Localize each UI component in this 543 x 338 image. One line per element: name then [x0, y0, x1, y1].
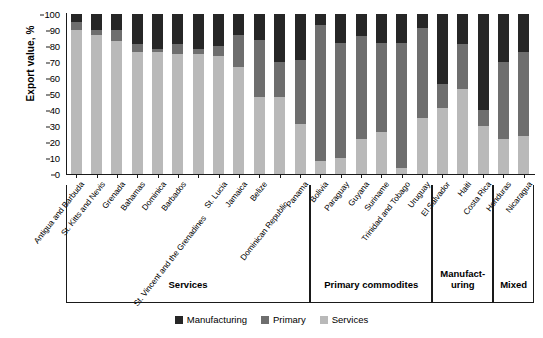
x-axis-tick-mark — [483, 174, 484, 178]
bar-segment-manufacturing — [315, 14, 326, 25]
bar-segment-services — [315, 161, 326, 174]
bar-segment-services — [152, 52, 163, 174]
legend-swatch — [261, 316, 269, 324]
bar-segment-primary — [396, 43, 407, 168]
bar-segment-manufacturing — [396, 14, 407, 43]
bar-segment-services — [478, 126, 489, 174]
bar-segment-services — [91, 35, 102, 174]
bar-segment-manufacturing — [376, 14, 387, 43]
bar-segment-services — [356, 139, 367, 174]
plot-area: 0102030405060708090100 — [66, 14, 534, 174]
x-axis-tick-mark — [178, 174, 179, 178]
bar-segment-manufacturing — [335, 14, 346, 43]
bar-stack — [437, 14, 448, 174]
x-axis-tick-mark — [239, 174, 240, 178]
bar-segment-primary — [233, 35, 244, 67]
y-axis-tick-label: 0 — [55, 169, 66, 180]
bar-stack — [417, 14, 428, 174]
bar-segment-primary — [295, 60, 306, 124]
y-axis-title: Export value, % — [25, 0, 36, 139]
y-axis-tick-label: 90 — [50, 25, 66, 36]
bar-segment-services — [213, 56, 224, 174]
bar-segment-primary — [437, 84, 448, 108]
y-axis-tick-mark — [46, 158, 50, 159]
y-axis-tick-label: 40 — [50, 105, 66, 116]
bar-segment-primary — [71, 22, 82, 30]
y-axis-tick-label: 60 — [50, 73, 66, 84]
x-axis-tick-mark — [117, 174, 118, 178]
bar-segment-manufacturing — [254, 14, 265, 40]
bar-stack — [498, 14, 509, 174]
x-axis-tick-mark — [524, 174, 525, 178]
x-axis-tick-mark — [76, 174, 77, 178]
y-axis-tick-mark — [46, 142, 50, 143]
bar-segment-manufacturing — [71, 14, 82, 22]
bar-stack — [172, 14, 183, 174]
bar-segment-manufacturing — [457, 14, 468, 44]
bar-segment-primary — [478, 110, 489, 126]
bar-segment-services — [254, 97, 265, 174]
x-axis-tick-mark — [259, 174, 260, 178]
x-axis-tick-mark — [300, 174, 301, 178]
x-axis-tick-mark — [280, 174, 281, 178]
bar-segment-manufacturing — [193, 14, 204, 49]
bar-segment-manufacturing — [437, 14, 448, 84]
bar-segment-primary — [335, 43, 346, 158]
bar-segment-services — [518, 136, 529, 174]
group-bracket: Mixed — [493, 185, 534, 303]
bar-segment-services — [233, 67, 244, 174]
bar-segment-manufacturing — [498, 14, 509, 62]
bar-segment-services — [457, 89, 468, 174]
bar-stack — [457, 14, 468, 174]
group-bracket: Manufact-uring — [432, 185, 493, 303]
group-bracket: Primary commodites — [310, 185, 432, 303]
bar-segment-services — [111, 41, 122, 174]
bar-segment-manufacturing — [111, 14, 122, 30]
legend-item: Manufacturing — [175, 314, 247, 325]
x-axis-tick-mark — [219, 174, 220, 178]
y-axis-tick-mark — [46, 78, 50, 79]
y-axis-tick-label: 10 — [50, 153, 66, 164]
bar-segment-services — [193, 54, 204, 174]
y-axis-tick-mark — [40, 14, 44, 15]
legend-label: Primary — [273, 314, 306, 325]
bar-segment-manufacturing — [417, 14, 428, 28]
bar-segment-primary — [376, 43, 387, 133]
bar-segment-primary — [518, 52, 529, 135]
legend-swatch — [320, 316, 328, 324]
bar-segment-primary — [315, 25, 326, 161]
bar-segment-primary — [417, 28, 428, 118]
stacked-bar-chart: Export value, % 0102030405060708090100 A… — [0, 0, 543, 338]
bar-segment-services — [417, 118, 428, 174]
group-label-line: uring — [433, 279, 492, 290]
legend-swatch — [175, 316, 183, 324]
bar-segment-primary — [356, 36, 367, 138]
bar-stack — [132, 14, 143, 174]
bar-segment-manufacturing — [478, 14, 489, 110]
bar-segment-manufacturing — [274, 14, 285, 62]
y-axis-tick-mark — [46, 46, 50, 47]
x-axis-tick-mark — [341, 174, 342, 178]
bar-stack — [233, 14, 244, 174]
group-label: Mixed — [494, 279, 533, 290]
y-axis-tick-mark — [51, 174, 55, 175]
bar-stack — [335, 14, 346, 174]
bar-segment-services — [376, 132, 387, 174]
y-axis-tick-label: 30 — [50, 121, 66, 132]
y-axis-tick-mark — [46, 62, 50, 63]
bar-stack — [71, 14, 82, 174]
bar-stack — [254, 14, 265, 174]
y-axis-tick-label: 50 — [50, 89, 66, 100]
bar-segment-services — [295, 124, 306, 174]
y-axis-tick-label: 100 — [44, 9, 66, 20]
bar-stack — [356, 14, 367, 174]
legend-label: Manufacturing — [187, 314, 247, 325]
bar-segment-manufacturing — [132, 14, 143, 44]
x-axis-tick-mark — [320, 174, 321, 178]
x-axis-tick-mark — [198, 174, 199, 178]
bar-segment-primary — [111, 30, 122, 41]
group-label: Primary commodites — [311, 279, 431, 290]
y-axis-tick-mark — [46, 110, 50, 111]
legend-item: Primary — [261, 314, 306, 325]
bar-segment-primary — [172, 44, 183, 54]
